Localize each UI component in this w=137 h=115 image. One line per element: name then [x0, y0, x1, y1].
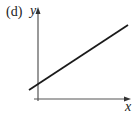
y-axis-arrow-icon — [36, 7, 41, 14]
data-line — [29, 25, 128, 90]
x-axis-arrow-icon — [124, 97, 131, 102]
chart-plot — [0, 0, 137, 115]
